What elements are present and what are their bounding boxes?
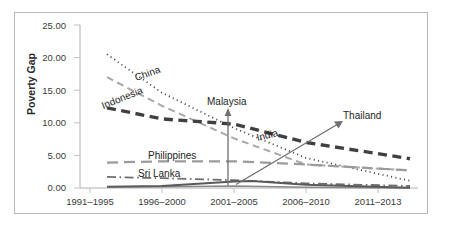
thailand-arrow-line (236, 124, 338, 185)
series-label-thailand: Thailand (343, 110, 381, 121)
malaysia-arrow-head (225, 108, 232, 116)
thailand-arrow-head (334, 121, 343, 129)
series-label-malaysia: Malaysia (207, 96, 246, 107)
series-label-philippines: Philippines (148, 150, 196, 161)
series-label-sri-lanka: Sri Lanka (138, 168, 180, 179)
chart-plot-area (0, 0, 450, 232)
